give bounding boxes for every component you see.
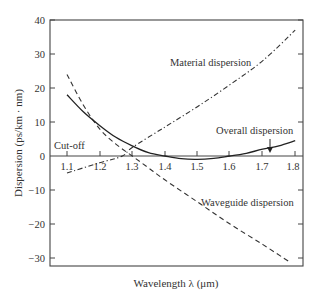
- x-tick-label: 1.3: [125, 161, 138, 172]
- x-tick-label: 1.7: [255, 161, 268, 172]
- x-tick-labels: 1.1 1.2 1.3 1.4 1.5 1.6 1.7 1.8: [60, 161, 299, 172]
- y-tick-label: 10: [35, 117, 46, 128]
- material-dispersion-label: Material dispersion: [170, 57, 252, 68]
- material-dispersion-curve: [67, 30, 295, 173]
- y-tick-label: −10: [29, 185, 45, 196]
- y-tick-label: −30: [29, 253, 45, 264]
- y-tick-label: 40: [35, 15, 46, 26]
- y-tick-labels: 40 30 20 10 0 −10 −20 −30: [29, 15, 45, 264]
- x-ticks: [67, 151, 295, 156]
- y-tick-label: 30: [35, 49, 46, 60]
- x-tick-label: 1.8: [286, 161, 299, 172]
- overall-dispersion-label: Overall dispersion: [216, 125, 294, 136]
- waveguide-dispersion-label: Waveguide dispersion: [201, 197, 295, 208]
- x-tick-label: 1.5: [190, 161, 203, 172]
- y-tick-label: 20: [35, 83, 46, 94]
- cutoff-label: Cut-off: [54, 140, 85, 151]
- x-tick-label: 1.4: [158, 161, 172, 172]
- y-ticks: [50, 20, 303, 258]
- x-tick-label: 1.6: [222, 161, 235, 172]
- y-tick-label: 0: [40, 151, 45, 162]
- x-tick-label: 1.1: [60, 161, 73, 172]
- x-axis-title: Wavelength λ (μm): [134, 277, 219, 290]
- y-tick-label: −20: [29, 219, 45, 230]
- dispersion-chart: 40 30 20 10 0 −10 −20 −30 1.1 1.2 1.3 1.…: [0, 0, 319, 306]
- y-axis-title: Dispersion (ps/km · nm): [12, 89, 25, 197]
- arrow-down-icon: [267, 139, 273, 153]
